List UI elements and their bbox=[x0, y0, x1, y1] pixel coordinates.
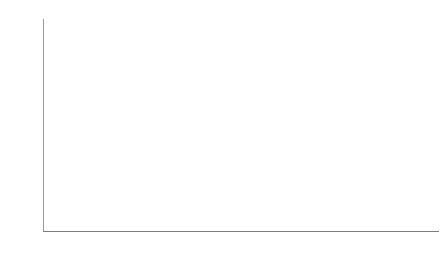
y-axis-line bbox=[43, 19, 44, 232]
stacked-bar-chart bbox=[0, 0, 444, 278]
footer-clipped-caption bbox=[0, 271, 444, 278]
x-axis-line bbox=[43, 231, 439, 232]
